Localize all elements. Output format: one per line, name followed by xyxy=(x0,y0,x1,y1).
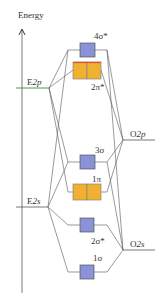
label-e2s: E2s xyxy=(27,197,41,206)
mo-diagram xyxy=(0,0,163,301)
label-o2p: O2p xyxy=(130,130,146,139)
label-1sigma: 1σ xyxy=(93,254,102,263)
label-o2s: O2s xyxy=(130,240,145,249)
label-2pi-star: 2π* xyxy=(91,83,105,92)
orbital-4sigma-star xyxy=(80,43,95,57)
orbital-1sigma xyxy=(80,265,94,279)
orbital-2pi-star xyxy=(73,62,101,79)
label-3sigma: 3σ xyxy=(95,146,104,155)
energy-axis xyxy=(19,29,25,293)
orbital-3sigma xyxy=(80,155,95,169)
label-1pi: 1π xyxy=(92,175,101,184)
label-4sigma-star: 4σ* xyxy=(94,32,108,41)
label-e2p: E2p xyxy=(27,78,42,87)
label-2sigma-star: 2σ* xyxy=(91,237,105,246)
axis-label: Energy xyxy=(18,11,44,20)
orbital-1pi xyxy=(73,184,101,200)
orbital-2sigma-star xyxy=(80,218,94,232)
